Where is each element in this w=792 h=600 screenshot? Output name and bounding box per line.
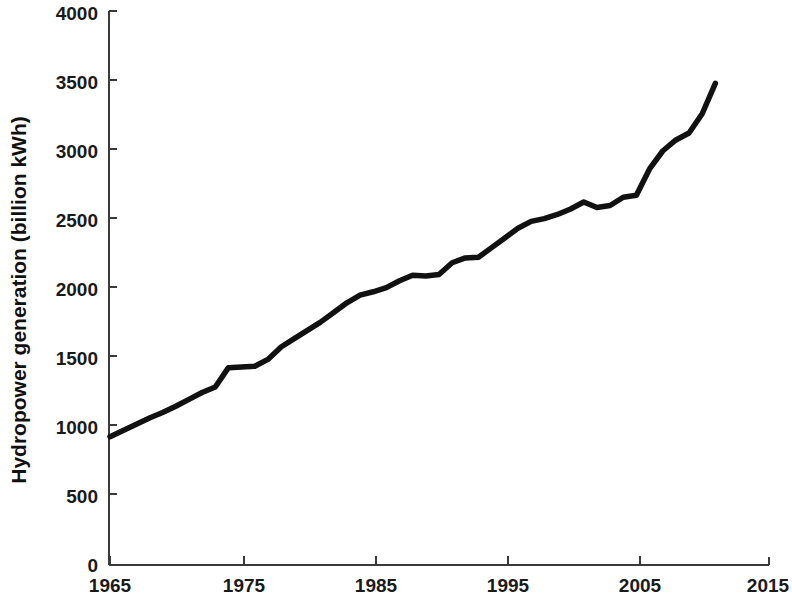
chart-page: Hydropower generation (billion kWh) 4000…	[0, 0, 792, 600]
x-tick-label-2015: 2015	[747, 575, 790, 596]
x-tick-label-1975: 1975	[223, 575, 266, 596]
x-tick-label-1995: 1995	[487, 575, 530, 596]
hydropower-series-line	[110, 83, 715, 436]
y-tick-label-0: 0	[87, 555, 98, 576]
y-tick-label-4000: 4000	[56, 3, 98, 24]
y-tick-label-2500: 2500	[56, 210, 98, 231]
y-tick-label-1000: 1000	[56, 417, 98, 438]
x-tick-label-1985: 1985	[355, 575, 398, 596]
y-tick-label-500: 500	[66, 486, 98, 507]
hydropower-line-chart: Hydropower generation (billion kWh) 4000…	[0, 0, 792, 600]
y-tick-label-1500: 1500	[56, 348, 98, 369]
y-tick-label-2000: 2000	[56, 279, 98, 300]
y-tick-label-3000: 3000	[56, 141, 98, 162]
x-tick-label-1965: 1965	[89, 575, 132, 596]
x-tick-label-2005: 2005	[619, 575, 662, 596]
y-tick-label-3500: 3500	[56, 72, 98, 93]
y-axis-title: Hydropower generation (billion kWh)	[7, 116, 30, 484]
x-tick-marks	[110, 556, 640, 565]
